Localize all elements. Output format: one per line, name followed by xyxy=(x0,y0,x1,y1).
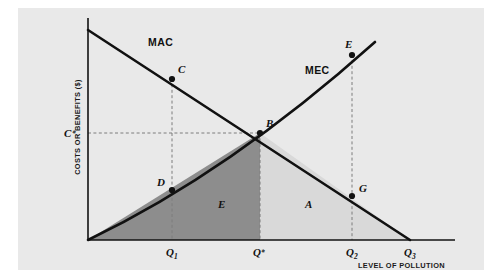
y-tick-cstar-base: C xyxy=(64,127,72,139)
point-marker-g xyxy=(349,193,355,199)
x-tick-q1-base: Q xyxy=(166,246,174,258)
point-label-e: E xyxy=(344,38,352,50)
x-tick-q1-sub: 1 xyxy=(174,252,178,261)
point-label-d: D xyxy=(156,176,165,188)
point-marker-b xyxy=(257,130,263,136)
x-tick-q3-sub: 3 xyxy=(411,252,416,261)
mac-curve-label: MAC xyxy=(148,36,173,48)
mec-curve-label: MEC xyxy=(305,64,330,76)
x-tick-qstar: Q * xyxy=(253,246,265,258)
shaded-region-e xyxy=(88,133,260,240)
point-marker-e xyxy=(349,52,355,58)
x-tick-qstar-base: Q xyxy=(253,246,261,258)
region-label-e: E xyxy=(217,198,225,210)
point-label-b: B xyxy=(265,117,273,129)
x-tick-q1: Q 1 xyxy=(166,246,178,261)
x-tick-qstar-sub: * xyxy=(261,248,265,257)
figure-root: MAC MEC C B E D G E A Q 1 Q * Q 2 Q 3 C xyxy=(0,0,502,279)
x-tick-q3: Q 3 xyxy=(404,246,416,261)
region-label-a: A xyxy=(304,198,312,210)
pollution-externality-chart: MAC MEC C B E D G E A Q 1 Q * Q 2 Q 3 C xyxy=(0,0,502,279)
point-marker-d xyxy=(169,187,175,193)
y-axis-title: COSTS OR BENEFITS ($) xyxy=(73,79,82,175)
point-label-g: G xyxy=(359,182,367,194)
x-tick-q2: Q 2 xyxy=(346,246,358,261)
x-tick-q3-base: Q xyxy=(404,246,412,258)
x-axis-title: LEVEL OF POLLUTION xyxy=(358,261,445,270)
point-label-c: C xyxy=(178,63,186,75)
point-marker-c xyxy=(169,76,175,82)
x-tick-q2-base: Q xyxy=(346,246,354,258)
x-tick-q2-sub: 2 xyxy=(353,252,358,261)
